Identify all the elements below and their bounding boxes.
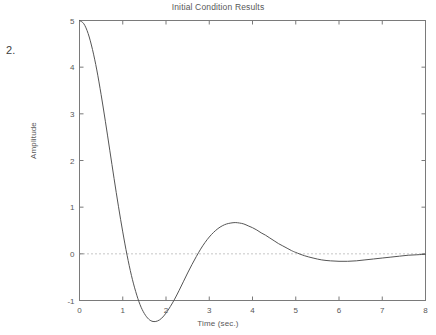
svg-text:7: 7 bbox=[380, 306, 385, 315]
data-series bbox=[80, 21, 426, 322]
svg-text:1: 1 bbox=[121, 306, 126, 315]
svg-text:3: 3 bbox=[207, 306, 212, 315]
svg-text:2: 2 bbox=[70, 157, 75, 166]
svg-text:5: 5 bbox=[294, 306, 299, 315]
svg-text:8: 8 bbox=[423, 306, 428, 315]
series-line bbox=[80, 21, 426, 322]
svg-text:3: 3 bbox=[70, 110, 75, 119]
svg-text:4: 4 bbox=[70, 63, 75, 72]
svg-text:6: 6 bbox=[337, 306, 342, 315]
y-axis-ticks: -1012345 bbox=[67, 17, 425, 306]
svg-text:0: 0 bbox=[70, 250, 75, 259]
svg-text:1: 1 bbox=[70, 203, 75, 212]
svg-text:5: 5 bbox=[70, 17, 75, 26]
svg-text:4: 4 bbox=[250, 306, 255, 315]
svg-text:-1: -1 bbox=[67, 297, 75, 306]
plot-area: 012345678 -1012345 bbox=[0, 0, 436, 335]
figure-canvas: 2. Initial Condition Results Amplitude T… bbox=[0, 0, 436, 335]
svg-text:0: 0 bbox=[77, 306, 82, 315]
